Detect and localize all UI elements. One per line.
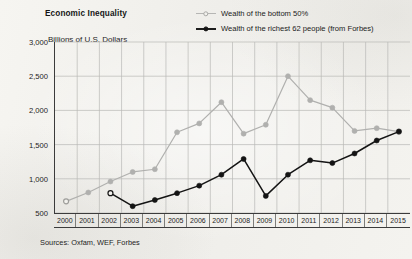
x-axis-tick-label: 2001 <box>79 217 95 224</box>
data-point-marker <box>263 193 268 198</box>
x-axis-tick-label: 2007 <box>212 217 228 224</box>
x-axis-tick-cell: 2011 <box>298 214 320 227</box>
data-point-marker <box>219 100 224 105</box>
x-axis-tick-cell: 2014 <box>365 214 387 227</box>
x-axis-tick-cell: 2007 <box>210 214 232 227</box>
x-axis-tick-cell: 2008 <box>232 214 254 227</box>
data-point-marker <box>263 122 268 127</box>
data-point-marker <box>285 172 290 177</box>
chart-legend: Wealth of the bottom 50% Wealth of the r… <box>196 9 374 33</box>
legend-label-richest-62: Wealth of the richest 62 people (from Fo… <box>221 24 374 33</box>
x-axis-tick-label: 2003 <box>124 217 140 224</box>
data-point-marker <box>241 131 246 136</box>
x-axis-tick-label: 2012 <box>323 217 339 224</box>
data-point-marker <box>330 105 335 110</box>
x-axis-tick-cell: 2010 <box>276 214 298 227</box>
x-axis-tick-cell: 2012 <box>320 214 342 227</box>
data-point-marker <box>197 121 202 126</box>
grid-lines <box>55 42 410 213</box>
x-axis-tick-cell: 2003 <box>121 214 143 227</box>
data-point-marker <box>175 191 180 196</box>
x-axis-tick-cell: 2006 <box>187 214 209 227</box>
x-axis-tick-label: 2013 <box>345 217 361 224</box>
data-point-marker <box>285 74 290 79</box>
x-axis-tick-label: 2006 <box>190 217 206 224</box>
x-axis-tick-label: 2008 <box>234 217 250 224</box>
data-point-marker <box>241 156 246 161</box>
y-axis-tick-label: 500 <box>35 209 48 218</box>
data-point-marker <box>352 128 357 133</box>
x-axis-tick-cell: 2004 <box>143 214 165 227</box>
data-point-marker <box>86 190 91 195</box>
data-point-marker <box>64 199 69 204</box>
data-point-marker <box>152 198 157 203</box>
x-axis-tick-cell: 2000 <box>54 214 76 227</box>
data-point-marker <box>374 126 379 131</box>
data-point-marker <box>308 158 313 163</box>
chart-title: Economic Inequality <box>45 9 127 18</box>
y-axis-tick-labels: 3,0002,5002,0001,5001,000500 <box>0 0 52 259</box>
data-point-marker <box>152 167 157 172</box>
data-point-marker <box>108 191 113 196</box>
y-axis-tick-label: 2,500 <box>29 72 48 81</box>
legend-marker-circle-open-icon <box>196 9 216 18</box>
data-point-marker <box>330 161 335 166</box>
x-axis-tick-label: 2009 <box>257 217 273 224</box>
x-axis-tick-cell: 2013 <box>343 214 365 227</box>
legend-label-bottom-50: Wealth of the bottom 50% <box>221 9 308 18</box>
x-axis-tick-cell: 2005 <box>165 214 187 227</box>
x-axis-tick-labels: 2000200120022003200420052006200720082009… <box>54 213 410 228</box>
x-axis-tick-cell: 2009 <box>254 214 276 227</box>
x-axis-tick-label: 2014 <box>368 217 384 224</box>
y-axis-tick-label: 3,000 <box>29 38 48 47</box>
legend-marker-circle-filled-icon <box>196 24 216 33</box>
x-axis-tick-label: 2015 <box>390 217 406 224</box>
data-point-marker <box>374 138 379 143</box>
plot-svg <box>55 42 410 213</box>
x-axis-tick-cell: 2001 <box>76 214 98 227</box>
x-axis-tick-cell: 2015 <box>387 214 409 227</box>
data-point-marker <box>352 151 357 156</box>
economic-inequality-chart: Economic Inequality Billions of U.S. Dol… <box>0 0 412 259</box>
x-axis-tick-label: 2004 <box>146 217 162 224</box>
x-axis-tick-label: 2011 <box>301 217 316 224</box>
x-axis-tick-cell: 2002 <box>99 214 121 227</box>
y-axis-tick-label: 2,000 <box>29 106 48 115</box>
data-point-marker <box>396 129 401 134</box>
x-axis-tick-label: 2010 <box>279 217 295 224</box>
data-point-marker <box>219 172 224 177</box>
y-axis-tick-label: 1,500 <box>29 140 48 149</box>
x-axis-tick-label: 2002 <box>101 217 117 224</box>
data-point-marker <box>130 204 135 209</box>
x-axis-tick-label: 2000 <box>57 217 73 224</box>
x-axis-tick-label: 2005 <box>168 217 184 224</box>
y-axis-tick-label: 1,000 <box>29 174 48 183</box>
data-point-marker <box>108 179 113 184</box>
data-point-marker <box>130 169 135 174</box>
data-point-marker <box>197 183 202 188</box>
data-point-marker <box>308 98 313 103</box>
source-note: Sources: Oxfam, WEF, Forbes <box>40 238 140 247</box>
plot-area <box>55 42 410 213</box>
legend-item-bottom-50[interactable]: Wealth of the bottom 50% <box>196 9 374 18</box>
legend-item-richest-62[interactable]: Wealth of the richest 62 people (from Fo… <box>196 24 374 33</box>
data-point-marker <box>175 130 180 135</box>
